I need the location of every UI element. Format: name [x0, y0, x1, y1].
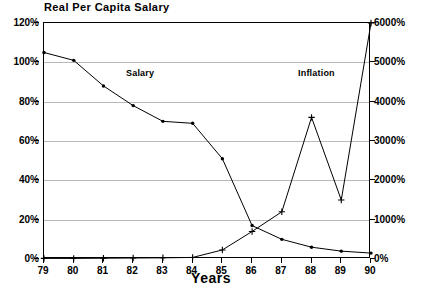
- y-axis-right-tick: [370, 22, 375, 23]
- y-axis-left-tick: [34, 258, 39, 259]
- y-axis-right-tick-label: 4000%: [374, 95, 405, 106]
- series-label-inflation: Inflation: [298, 68, 335, 78]
- x-axis-tick: [132, 258, 133, 263]
- data-point-marker: [161, 120, 164, 123]
- y-axis-left-tick: [34, 219, 39, 220]
- x-axis-tick: [102, 258, 103, 263]
- y-axis-right-tick: [370, 101, 375, 102]
- data-point-marker: [102, 84, 105, 87]
- y-axis-right-tick-label: 3000%: [374, 135, 405, 146]
- data-point-marker: [340, 249, 343, 252]
- data-point-marker: [250, 224, 253, 227]
- data-point-marker: [279, 209, 285, 215]
- y-axis-right-tick-label: 5000%: [374, 56, 405, 67]
- data-point-marker: [310, 246, 313, 249]
- series-label-salary: Salary: [126, 68, 154, 78]
- x-axis-title: Years: [0, 270, 422, 286]
- y-axis-left-tick: [34, 179, 39, 180]
- chart-title: Real Per Capita Salary: [44, 1, 170, 13]
- data-point-marker: [308, 114, 314, 120]
- data-point-marker: [219, 247, 225, 253]
- y-axis-right-tick-label: 1000%: [374, 213, 405, 224]
- x-axis-tick: [192, 258, 193, 263]
- y-axis-right-tick-label: 2000%: [374, 174, 405, 185]
- x-axis-tick: [340, 258, 341, 263]
- x-axis-tick: [251, 258, 252, 263]
- y-axis-left-tick: [34, 61, 39, 62]
- data-point-marker: [131, 104, 134, 107]
- data-point-marker: [249, 228, 255, 234]
- y-axis-left-tick: [34, 101, 39, 102]
- y-axis-left: 0%20%40%60%80%100%120%: [0, 22, 39, 258]
- y-axis-right-tick-label: 6000%: [374, 17, 405, 28]
- y-axis-left-tick: [34, 140, 39, 141]
- y-axis-right-tick: [370, 219, 375, 220]
- series-salary: [42, 51, 372, 255]
- x-axis-tick: [162, 258, 163, 263]
- x-axis-tick: [281, 258, 282, 263]
- x-axis-tick: [311, 258, 312, 263]
- y-axis-left-tick: [34, 22, 39, 23]
- x-axis-tick: [43, 258, 44, 263]
- data-point-marker: [42, 51, 45, 54]
- x-axis-tick: [370, 258, 371, 263]
- y-axis-right-tick-label: 0%: [374, 253, 388, 264]
- y-axis-right-tick: [370, 140, 375, 141]
- data-point-marker: [191, 122, 194, 125]
- data-point-marker: [369, 251, 372, 254]
- data-point-marker: [338, 197, 344, 203]
- y-axis-right-tick: [370, 61, 375, 62]
- x-axis-tick: [221, 258, 222, 263]
- y-axis-right: 0%1000%2000%3000%4000%5000%6000%: [374, 22, 422, 258]
- data-point-marker: [280, 238, 283, 241]
- plot-area: Salary Inflation: [43, 22, 370, 258]
- series-line: [44, 53, 371, 254]
- data-point-marker: [72, 59, 75, 62]
- x-axis-tick: [73, 258, 74, 263]
- chart-root: Real Per Capita Salary Salary Inflation …: [0, 0, 422, 300]
- y-axis-right-tick: [370, 179, 375, 180]
- series-plot-layer: [44, 23, 371, 259]
- data-point-marker: [221, 157, 224, 160]
